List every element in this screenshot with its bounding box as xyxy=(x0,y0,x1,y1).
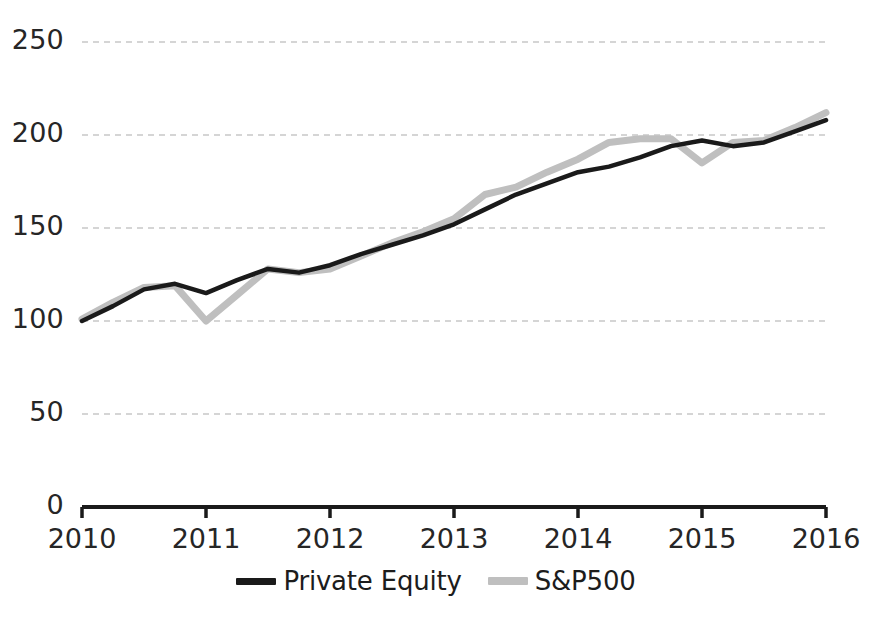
legend-item-private-equity[interactable]: Private Equity xyxy=(236,566,461,596)
chart-legend: Private Equity S&P500 xyxy=(0,566,872,596)
legend-swatch-private-equity xyxy=(236,578,276,585)
legend-label-sp500: S&P500 xyxy=(535,566,636,596)
x-axis-label-2014: 2014 xyxy=(523,523,633,554)
x-axis-label-2012: 2012 xyxy=(275,523,385,554)
x-axis-label-2010: 2010 xyxy=(27,523,137,554)
y-axis-label-200: 200 xyxy=(0,117,64,148)
line-chart: 050100150200250 201020112012201320142015… xyxy=(0,0,872,622)
y-axis-label-100: 100 xyxy=(0,303,64,334)
x-axis-label-2011: 2011 xyxy=(151,523,261,554)
legend-swatch-sp500 xyxy=(488,577,528,585)
x-axis-label-2015: 2015 xyxy=(647,523,757,554)
y-axis-label-0: 0 xyxy=(0,489,64,520)
data-series-layer xyxy=(82,113,826,321)
x-axis-label-2013: 2013 xyxy=(399,523,509,554)
y-axis-label-50: 50 xyxy=(0,396,64,427)
y-axis-label-150: 150 xyxy=(0,210,64,241)
x-axis-label-2016: 2016 xyxy=(771,523,872,554)
y-axis-label-250: 250 xyxy=(0,24,64,55)
legend-label-private-equity: Private Equity xyxy=(283,566,461,596)
gridlines xyxy=(82,42,826,414)
legend-item-sp500[interactable]: S&P500 xyxy=(488,566,636,596)
